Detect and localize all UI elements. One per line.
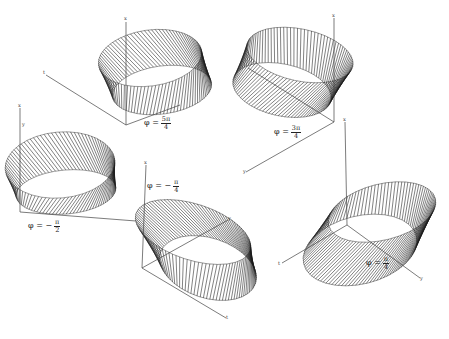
panel-5-axis-t: t bbox=[278, 260, 280, 266]
panel-2-axis-y: y bbox=[243, 168, 246, 174]
phi-fraction: 3π4 bbox=[291, 125, 301, 139]
panel-5-phi-label: φ = π4 bbox=[366, 256, 389, 270]
panel-3-axis-x: x bbox=[18, 102, 21, 108]
phi-prefix: φ = − bbox=[147, 182, 171, 190]
panel-3-phi-label: φ = − π2 bbox=[28, 219, 60, 233]
panel-4-axis-x: x bbox=[144, 159, 147, 165]
panel-4-axis-y: y bbox=[228, 215, 231, 221]
phi-fraction: π4 bbox=[173, 179, 179, 193]
panel-2-axis-x: x bbox=[332, 12, 335, 18]
phi-fraction: π4 bbox=[383, 256, 389, 270]
panel-1-axis-t: t bbox=[43, 69, 45, 75]
surface-panel-2 bbox=[228, 18, 359, 125]
panel-1-axis-x: x bbox=[124, 15, 127, 21]
axes-lines bbox=[20, 18, 420, 318]
phi-fraction: 5π4 bbox=[161, 116, 171, 130]
panel-4-axis-t: t bbox=[226, 314, 228, 320]
panel-2-phi-label: φ = 3π4 bbox=[274, 125, 301, 139]
phi-prefix: φ = bbox=[274, 128, 289, 136]
figure-canvas bbox=[0, 0, 449, 339]
phi-prefix: φ = bbox=[366, 259, 381, 267]
surface-panel-3 bbox=[2, 127, 117, 218]
surface-panel-4 bbox=[127, 187, 265, 312]
phi-fraction: π2 bbox=[54, 219, 60, 233]
panel-5-axis-x: x bbox=[343, 116, 346, 122]
phi-prefix: φ = bbox=[144, 119, 159, 127]
panel-3-axis-y: y bbox=[22, 121, 25, 127]
panel-5-axis-y: y bbox=[420, 275, 423, 281]
phi-prefix: φ = − bbox=[28, 222, 52, 230]
panel-4-phi-label: φ = − π4 bbox=[147, 179, 179, 193]
surface-panel-1 bbox=[95, 23, 215, 121]
panel-1-phi-label: φ = 5π4 bbox=[144, 116, 171, 130]
